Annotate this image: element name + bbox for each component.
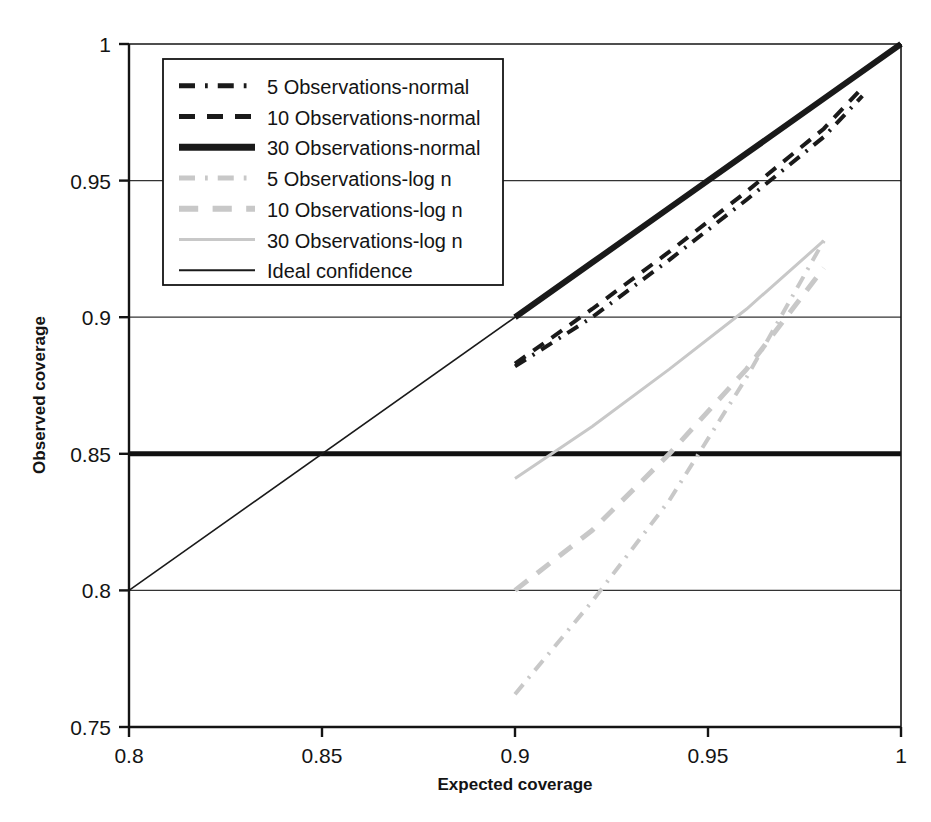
- series-line-0: [515, 96, 862, 366]
- y-tick-label-1: 0.8: [82, 579, 111, 602]
- y-tick-label-0: 0.75: [70, 716, 111, 739]
- y-tick-label-5: 1: [99, 33, 111, 56]
- series-line-3: [515, 241, 824, 695]
- coverage-chart: 0.750.80.850.90.9510.80.850.90.951 5 Obs…: [0, 0, 931, 822]
- legend-label-0: 5 Observations-normal: [267, 76, 469, 98]
- legend-label-3: 5 Observations-log n: [267, 168, 452, 190]
- y-tick-label-4: 0.95: [70, 170, 111, 193]
- chart-page: 0.750.80.850.90.9510.80.850.90.951 5 Obs…: [0, 0, 931, 822]
- x-tick-label-0: 0.8: [114, 744, 143, 767]
- x-tick-label-4: 1: [895, 744, 907, 767]
- series-line-5: [515, 241, 824, 479]
- legend-label-4: 10 Observations-log n: [267, 199, 463, 221]
- legend-label-6: Ideal confidence: [267, 260, 413, 282]
- x-tick-label-3: 0.95: [688, 744, 729, 767]
- legend-label-2: 30 Observations-normal: [267, 137, 480, 159]
- y-tick-label-2: 0.85: [70, 443, 111, 466]
- x-tick-label-2: 0.9: [500, 744, 529, 767]
- y-axis-title: Observed coverage: [30, 316, 49, 474]
- series-line-1: [515, 88, 862, 364]
- legend: 5 Observations-normal10 Observations-nor…: [163, 59, 503, 285]
- legend-label-5: 30 Observations-log n: [267, 230, 463, 252]
- y-tick-label-3: 0.9: [82, 306, 111, 329]
- x-tick-label-1: 0.85: [302, 744, 343, 767]
- series-line-4: [515, 268, 824, 590]
- x-axis-title: Expected coverage: [438, 775, 593, 794]
- legend-label-1: 10 Observations-normal: [267, 107, 480, 129]
